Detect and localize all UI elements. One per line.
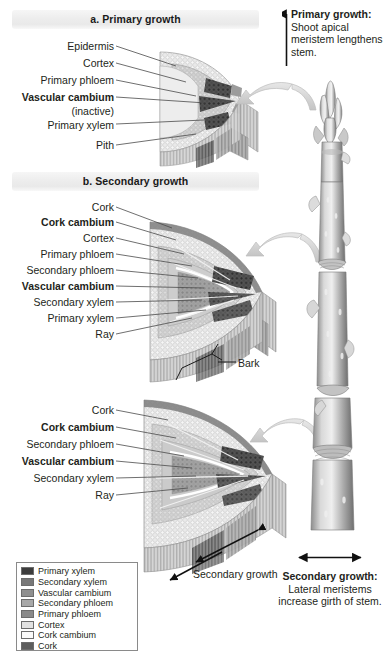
up-arrow-icon <box>282 9 291 67</box>
legend-swatch-cork-cambium <box>21 631 34 639</box>
label-ray-lower: Ray <box>4 489 114 501</box>
legend-label-primary-phloem: Primary phloem <box>38 609 101 619</box>
legend-item: Cortex <box>21 619 133 629</box>
label-vascular-cambium-lower: Vascular cambium <box>4 455 114 467</box>
legend-item: Cork cambium <box>21 630 133 640</box>
panel-b-lower-leader-lines <box>116 410 196 495</box>
callout-secondary-heading: Secondary growth: <box>282 570 377 582</box>
legend-label-secondary-phloem: Secondary phloem <box>38 598 113 608</box>
label-vascular-cambium-mid: Vascular cambium <box>4 280 114 292</box>
legend-label-cork: Cork <box>38 641 57 651</box>
legend-label-vascular-cambium: Vascular cambium <box>38 588 111 598</box>
legend-label-secondary-xylem: Secondary xylem <box>38 577 107 587</box>
legend-item: Primary xylem <box>21 566 133 576</box>
label-cork-lower: Cork <box>4 404 114 416</box>
label-ray-mid: Ray <box>4 328 114 340</box>
legend-swatch-primary-phloem <box>21 610 34 618</box>
label-secondary-xylem-lower: Secondary xylem <box>4 472 114 484</box>
label-secondary-growth-arrow: Secondary growth <box>193 568 278 580</box>
legend-swatch-secondary-xylem <box>21 578 34 586</box>
curved-pointer-arrow-icon-b1 <box>246 233 322 262</box>
legend-label-primary-xylem: Primary xylem <box>38 566 95 576</box>
legend-item: Primary phloem <box>21 609 133 619</box>
label-epidermis: Epidermis <box>4 40 114 52</box>
label-cork-mid: Cork <box>4 201 114 213</box>
callout-secondary-body: Lateral meristems increase girth of stem… <box>278 583 381 608</box>
label-cortex-a: Cortex <box>4 57 114 69</box>
double-arrow-horizontal-icon <box>292 552 368 563</box>
label-vascular-cambium-inactive: (inactive) <box>4 105 114 117</box>
legend-item: Cork <box>21 641 133 651</box>
label-cork-cambium-lower: Cork cambium <box>4 421 114 433</box>
label-pith: Pith <box>4 139 114 151</box>
panel-a-leader-lines <box>116 46 206 145</box>
label-secondary-phloem-lower: Secondary phloem <box>4 438 114 450</box>
woody-twig-illustration <box>307 81 354 530</box>
label-vascular-cambium-a: Vascular cambium <box>4 91 114 103</box>
label-bark: Bark <box>238 357 260 369</box>
label-primary-xylem-a: Primary xylem <box>4 119 114 131</box>
legend-item: Secondary xylem <box>21 577 133 587</box>
label-primary-xylem-mid: Primary xylem <box>4 312 114 324</box>
curved-pointer-arrow-icon-a <box>236 82 316 110</box>
legend-item: Secondary phloem <box>21 598 133 608</box>
callout-primary-growth: Primary growth: Shoot apical meristem le… <box>291 8 388 58</box>
label-primary-phloem-a: Primary phloem <box>4 74 114 86</box>
label-cortex-mid: Cortex <box>4 232 114 244</box>
callout-primary-heading: Primary growth: <box>291 8 372 20</box>
legend-label-cortex: Cortex <box>38 620 65 630</box>
label-primary-phloem-mid: Primary phloem <box>4 248 114 260</box>
stem-growth-figure: a. Primary growth b. Secondary growth Ep… <box>0 0 390 659</box>
label-secondary-xylem-mid: Secondary xylem <box>4 296 114 308</box>
panel-a-stem-wedge <box>160 52 258 168</box>
legend: Primary xylem Secondary xylem Vascular c… <box>16 562 138 651</box>
label-cork-cambium-mid: Cork cambium <box>4 216 114 228</box>
curved-pointer-arrow-icon-b2 <box>250 419 324 448</box>
legend-swatch-cork <box>21 642 34 650</box>
legend-swatch-vascular-cambium <box>21 589 34 597</box>
panel-b-mid-leader-lines <box>116 207 206 334</box>
legend-swatch-primary-xylem <box>21 567 34 575</box>
legend-item: Vascular cambium <box>21 587 133 597</box>
callout-primary-body: Shoot apical meristem lengthens stem. <box>291 21 383 58</box>
callout-secondary-growth: Secondary growth: Lateral meristems incr… <box>272 570 388 608</box>
panel-b-lower-stem-wedge <box>144 400 286 574</box>
label-secondary-phloem-mid: Secondary phloem <box>4 264 114 276</box>
legend-swatch-secondary-phloem <box>21 599 34 607</box>
panel-a-header: a. Primary growth <box>12 10 259 29</box>
bark-bracket-icon <box>176 344 236 380</box>
legend-swatch-cortex <box>21 621 34 629</box>
legend-label-cork-cambium: Cork cambium <box>38 630 96 640</box>
panel-b-header: b. Secondary growth <box>12 172 259 191</box>
